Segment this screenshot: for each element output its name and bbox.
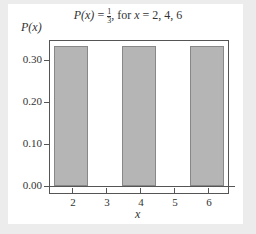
x-axis-line — [45, 186, 235, 187]
y-tick-1: 0.10 — [10, 137, 42, 149]
y-tick-2: 0.20 — [10, 95, 42, 107]
y-tick-3: 0.30 — [10, 53, 42, 65]
title-vals: = 2, 4, 6 — [139, 8, 182, 22]
title-rest: , for — [111, 8, 134, 22]
y-axis-label: P(x) — [21, 20, 42, 35]
y-tick-mark-0 — [44, 186, 49, 187]
y-tick-mark-2 — [44, 102, 49, 103]
x-tick-3: 3 — [101, 196, 113, 208]
x-tick-mark-4 — [140, 188, 141, 194]
bar-x2 — [54, 46, 88, 186]
bar-x4 — [122, 46, 156, 186]
x-tick-5: 5 — [169, 196, 181, 208]
title-eq: = — [94, 8, 107, 22]
x-tick-6: 6 — [203, 196, 215, 208]
title-lhs: P(x) — [74, 8, 95, 22]
x-tick-2: 2 — [67, 196, 79, 208]
x-tick-mark-3 — [106, 188, 107, 194]
y-tick-0: 0.00 — [10, 179, 42, 191]
x-tick-mark-5 — [174, 188, 175, 194]
x-axis-label: x — [135, 207, 140, 222]
x-tick-mark-6 — [208, 188, 209, 194]
y-tick-mark-1 — [44, 144, 49, 145]
x-tick-mark-2 — [72, 188, 73, 194]
bar-x6 — [190, 46, 224, 186]
y-tick-mark-3 — [44, 60, 49, 61]
